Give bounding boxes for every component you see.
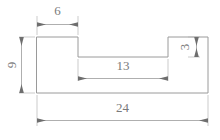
dim-3-label: 3 xyxy=(177,44,192,51)
engineering-drawing-canvas: 6 9 3 13 24 xyxy=(0,0,220,140)
dimension-3-group: 3 xyxy=(177,37,200,57)
dim-6-label: 6 xyxy=(54,3,61,18)
dimension-13-group: 13 xyxy=(78,58,168,81)
dimension-24-group: 24 xyxy=(37,95,208,126)
dimension-9-group: 9 xyxy=(4,37,35,93)
dimension-drawing-svg: 6 9 3 13 24 xyxy=(0,0,220,140)
dim-13-label: 13 xyxy=(117,58,130,73)
dim-9-label: 9 xyxy=(4,62,19,69)
dimension-6-group: 6 xyxy=(37,3,78,35)
dim-24-label: 24 xyxy=(116,100,130,115)
